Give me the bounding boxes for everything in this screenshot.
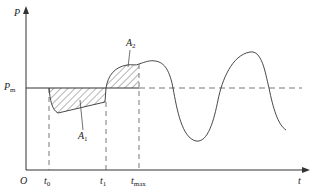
a1-label: A1 [78,131,88,143]
a2-label: A2 [126,38,136,50]
diagram-graphics [0,0,314,196]
area-a2 [106,64,139,88]
area-a1 [49,88,106,113]
y-axis-label: P [14,8,20,18]
y-axis-arrow-icon [23,6,29,14]
diagram: P t O Pm t0 t1 tmax A1 A2 [0,0,314,196]
t1-label: t1 [100,176,106,188]
t0-label: t0 [44,176,50,188]
tmax-label: tmax [131,176,146,188]
pm-label: Pm [4,82,16,94]
origin-label: O [20,176,27,186]
x-axis-arrow-icon [302,167,310,173]
x-axis-label: t [298,176,301,186]
